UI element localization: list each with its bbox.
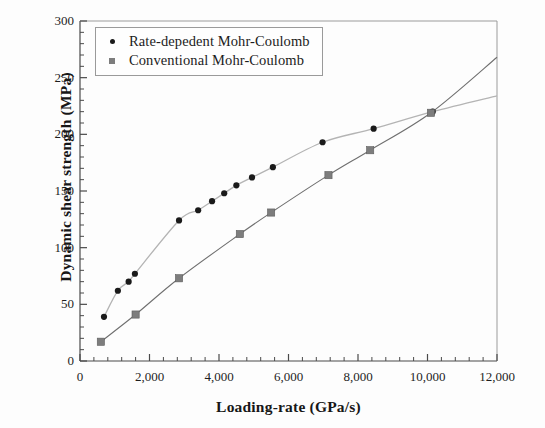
x-tick-label: 0 — [45, 369, 115, 385]
data-point-circle — [319, 139, 325, 145]
x-tick-label: 12,000 — [462, 369, 532, 385]
data-point-circle — [132, 271, 138, 277]
series-line-conventional — [101, 57, 497, 341]
data-point-square — [132, 311, 139, 318]
data-point-circle — [115, 288, 121, 294]
x-tick-label: 2,000 — [115, 369, 185, 385]
square-marker-icon — [104, 58, 120, 64]
data-point-square — [427, 109, 434, 116]
data-point-circle — [270, 164, 276, 170]
data-point-circle — [371, 126, 377, 132]
data-point-square — [268, 209, 275, 216]
data-point-circle — [233, 182, 239, 188]
data-point-circle — [209, 198, 215, 204]
x-tick-label: 4,000 — [184, 369, 254, 385]
data-point-circle — [126, 279, 132, 285]
data-point-circle — [176, 217, 182, 223]
data-point-square — [325, 172, 332, 179]
data-point-circle — [221, 190, 227, 196]
legend-item-label: Rate-depedent Mohr-Coulomb — [129, 33, 310, 50]
series-line-rate-dependent — [104, 96, 497, 317]
data-point-square — [97, 338, 104, 345]
x-axis-tick-labels: 02,0004,0006,0008,00010,00012,000 — [0, 369, 545, 393]
x-tick-label: 10,000 — [393, 369, 463, 385]
data-point-square — [236, 230, 243, 237]
data-point-circle — [101, 314, 107, 320]
chart-figure: Dynamic shear strength (MPa) 05010015020… — [0, 0, 545, 428]
x-tick-label: 8,000 — [323, 369, 393, 385]
data-point-square — [367, 147, 374, 154]
legend-item-label: Conventional Mohr-Coulomb — [129, 52, 304, 69]
data-point-circle — [195, 207, 201, 213]
x-axis-title: Loading-rate (GPa/s) — [80, 398, 497, 416]
legend: Rate-depedent Mohr-Coulomb Conventional … — [95, 27, 323, 76]
legend-item: Rate-depedent Mohr-Coulomb — [104, 32, 310, 51]
data-point-circle — [249, 174, 255, 180]
x-tick-label: 6,000 — [254, 369, 324, 385]
legend-item: Conventional Mohr-Coulomb — [104, 51, 310, 70]
data-point-square — [175, 275, 182, 282]
circle-marker-icon — [104, 39, 120, 44]
